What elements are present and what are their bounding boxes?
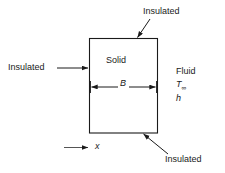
heat-transfer-diagram: Insulated Insulated Insulated Solid B x … xyxy=(0,0,225,173)
convection-coefficient-label: h xyxy=(176,94,181,103)
solid-body-label: Solid xyxy=(106,56,126,65)
fluid-label: Fluid xyxy=(176,67,196,76)
x-axis-label: x xyxy=(95,142,100,151)
insulated-top-label: Insulated xyxy=(143,7,180,16)
dimension-b-label: B xyxy=(120,79,126,88)
insulated-bottom-label: Insulated xyxy=(165,155,202,164)
fluid-temperature-subscript: ∞ xyxy=(182,84,187,91)
insulated-bottom-arrow xyxy=(144,134,169,154)
fluid-temperature-label: T∞ xyxy=(176,80,186,91)
diagram-canvas xyxy=(0,0,225,173)
insulated-top-arrow xyxy=(138,19,151,38)
insulated-left-label: Insulated xyxy=(8,63,45,72)
